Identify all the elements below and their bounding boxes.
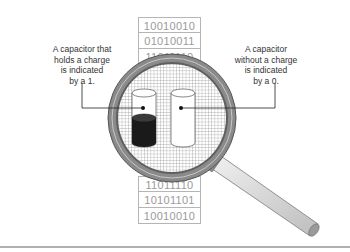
callout-charged-capacitor: A capacitor that holds a charge is indic… [32, 44, 132, 86]
magnifier-illustration [0, 0, 350, 252]
capacitor-uncharged [171, 89, 195, 147]
callout-uncharged-capacitor: A capacitor without a charge is indicate… [216, 44, 316, 86]
bottom-divider [0, 246, 350, 248]
capacitor-charged [132, 89, 156, 147]
